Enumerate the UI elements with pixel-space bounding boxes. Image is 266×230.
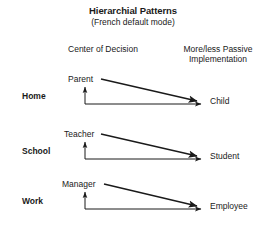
arrow-group-school: [85, 134, 201, 159]
arrow-group-home: [85, 79, 201, 104]
influence-arrow-home: [101, 79, 197, 101]
hierarchial-patterns-diagram: Hierarchial Patterns (French default mod…: [0, 0, 266, 230]
influence-arrow-work: [104, 184, 197, 206]
arrow-group-work: [85, 184, 201, 209]
arrow-layer: [0, 0, 266, 230]
influence-arrow-school: [101, 134, 197, 156]
